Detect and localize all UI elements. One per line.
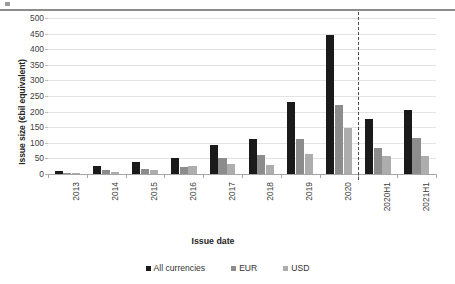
- y-tick-label-500: 500: [30, 14, 44, 22]
- bar-2021H1-usd: [421, 156, 429, 174]
- legend-swatch-icon-1: [231, 266, 236, 271]
- plot-area: 050100150200250300350400450500: [48, 18, 436, 180]
- x-label-2016: 2016: [188, 182, 198, 201]
- y-axis-title: Issue size (€bil equivalent): [17, 32, 27, 192]
- bar-2019-usd: [305, 154, 313, 174]
- bar-group-2021H1: [397, 18, 436, 174]
- legend-swatch-icon-2: [283, 266, 288, 271]
- bar-group-2018: [242, 18, 281, 174]
- bar-2020-eur: [335, 105, 343, 174]
- bar-2016-eur: [180, 167, 188, 174]
- x-tick-mark-3: [164, 174, 165, 178]
- y-tick-label-200: 200: [30, 108, 44, 116]
- legend-label-2: USD: [291, 263, 309, 273]
- bar-2017-usd: [227, 164, 235, 174]
- x-tick-mark-7: [320, 174, 321, 178]
- page-corner-mark: [5, 2, 10, 6]
- x-tick-mark-5: [242, 174, 243, 178]
- y-tick-label-400: 400: [30, 45, 44, 53]
- y-tick-label-250: 250: [30, 92, 44, 100]
- bar-2015-usd: [150, 170, 158, 174]
- y-tick-label-100: 100: [30, 139, 44, 147]
- bar-group-2013: [48, 18, 87, 174]
- x-label-2019: 2019: [304, 182, 314, 201]
- x-tick-mark-6: [281, 174, 282, 178]
- period-divider-line: [358, 12, 359, 180]
- bar-group-2016: [164, 18, 203, 174]
- bar-2016-usd: [188, 166, 196, 174]
- legend-label-0: All currencies: [154, 263, 206, 273]
- x-label-2014: 2014: [110, 182, 120, 201]
- bar-2015-eur: [141, 169, 149, 174]
- y-tick-label-350: 350: [30, 61, 44, 69]
- bar-2016-all: [171, 158, 179, 174]
- bar-2018-usd: [266, 165, 274, 174]
- x-tick-mark-end: [436, 174, 437, 178]
- bar-2014-usd: [111, 172, 119, 174]
- bar-2020H1-all: [365, 119, 373, 174]
- chart-figure: Issue size (€bil equivalent) 05010015020…: [0, 12, 455, 284]
- y-tick-label-150: 150: [30, 123, 44, 131]
- x-label-2015: 2015: [149, 182, 159, 201]
- bar-group-2015: [126, 18, 165, 174]
- bar-2018-all: [249, 139, 257, 174]
- y-tick-label-450: 450: [30, 30, 44, 38]
- bar-2017-eur: [218, 158, 226, 174]
- bar-2018-eur: [257, 155, 265, 174]
- bar-group-2014: [87, 18, 126, 174]
- bar-2021H1-eur: [412, 138, 420, 175]
- legend-item-0[interactable]: All currencies: [146, 263, 206, 273]
- bar-2019-eur: [296, 139, 304, 174]
- y-tick-label-50: 50: [35, 154, 44, 162]
- x-label-2013: 2013: [71, 182, 81, 201]
- bar-2020H1-usd: [382, 156, 390, 174]
- chart-legend: All currenciesEURUSD: [0, 263, 455, 273]
- legend-label-1: EUR: [239, 263, 257, 273]
- bar-2014-eur: [102, 170, 110, 174]
- bar-2019-all: [287, 102, 295, 174]
- bar-2013-all: [55, 171, 63, 174]
- x-label-2021H1: 2021H1: [421, 182, 431, 211]
- x-label-2020H1: 2020H1: [382, 182, 392, 211]
- x-label-2018: 2018: [265, 182, 275, 201]
- bar-2021H1-all: [404, 110, 412, 174]
- x-axis-tick-labels: 201320142015201620172018201920202020H120…: [48, 182, 436, 234]
- bar-2015-all: [132, 162, 140, 174]
- x-tick-mark-9: [397, 174, 398, 178]
- legend-swatch-icon-0: [146, 266, 151, 271]
- bars-layer: [48, 18, 436, 174]
- x-label-2020: 2020: [343, 182, 353, 201]
- bar-2014-all: [93, 166, 101, 174]
- bar-2020-usd: [344, 128, 352, 174]
- page-top-rule: [0, 9, 455, 11]
- bar-2013-eur: [63, 173, 71, 174]
- y-tick-label-0: 0: [39, 170, 44, 178]
- bar-group-2019: [281, 18, 320, 174]
- legend-item-2[interactable]: USD: [283, 263, 309, 273]
- legend-item-1[interactable]: EUR: [231, 263, 257, 273]
- bar-2017-all: [210, 145, 218, 174]
- bar-2020-all: [326, 35, 334, 174]
- x-tick-mark-1: [87, 174, 88, 178]
- x-tick-mark-4: [203, 174, 204, 178]
- x-tick-mark-0: [48, 174, 49, 178]
- bar-group-2020H1: [358, 18, 397, 174]
- bar-group-2017: [203, 18, 242, 174]
- bar-2020H1-eur: [374, 148, 382, 174]
- x-axis-title: Issue date: [48, 236, 378, 246]
- y-tick-label-300: 300: [30, 76, 44, 84]
- x-tick-mark-2: [126, 174, 127, 178]
- bar-2013-usd: [72, 173, 80, 174]
- bar-group-2020: [320, 18, 359, 174]
- x-label-2017: 2017: [227, 182, 237, 201]
